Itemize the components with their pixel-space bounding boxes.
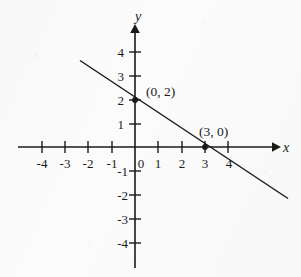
origin-label: 0 (138, 156, 145, 171)
x-tick-label--1: -1 (107, 156, 118, 171)
plotted-line (80, 61, 288, 199)
y-axis (129, 24, 141, 268)
point-y-intercept (132, 97, 138, 103)
y-tick-label-3: 3 (118, 69, 125, 84)
x-tick-label-2: 2 (179, 156, 186, 171)
x-tick-label-4: 4 (226, 156, 233, 171)
x-axis (18, 141, 281, 153)
label-x-intercept: (3, 0) (199, 124, 228, 139)
y-axis-label: y (133, 9, 142, 24)
y-axis-arrowhead (130, 24, 140, 33)
y-axis-tick-labels: 4 3 2 1 -1 -2 -3 -4 (117, 45, 128, 251)
coordinate-plane-figure: -4 -3 -2 -1 1 2 3 4 0 4 3 2 1 -1 -2 -3 -… (0, 0, 301, 277)
y-tick-label--3: -3 (117, 212, 128, 227)
line-segment (80, 61, 288, 199)
y-tick-label--1: -1 (117, 164, 128, 179)
x-tick-label-3: 3 (202, 156, 209, 171)
y-tick-label-1: 1 (118, 117, 125, 132)
y-tick-label--4: -4 (117, 236, 128, 251)
x-tick-label--3: -3 (60, 156, 71, 171)
x-tick-label--2: -2 (83, 156, 94, 171)
x-axis-arrowhead (272, 142, 281, 152)
label-y-intercept: (0, 2) (146, 84, 175, 99)
x-tick-label-1: 1 (155, 156, 162, 171)
graph-canvas: -4 -3 -2 -1 1 2 3 4 0 4 3 2 1 -1 -2 -3 -… (0, 0, 301, 277)
x-axis-label: x (282, 140, 290, 155)
y-tick-label-2: 2 (118, 93, 125, 108)
y-tick-label-4: 4 (118, 45, 125, 60)
y-tick-label--2: -2 (117, 188, 128, 203)
data-points (132, 97, 208, 150)
x-tick-label--4: -4 (37, 156, 48, 171)
point-x-intercept (202, 144, 208, 150)
